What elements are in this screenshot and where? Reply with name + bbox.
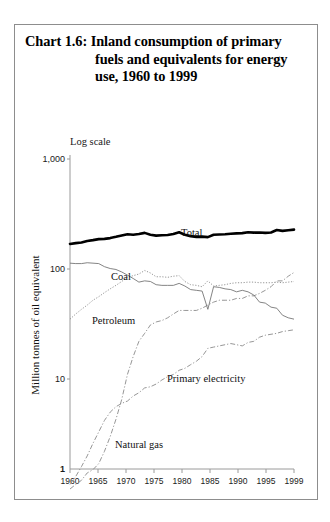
x-tick-label-1995: 1995 — [257, 476, 276, 486]
x-tick-label-1970: 1970 — [117, 476, 136, 486]
series-label-natural-gas: Natural gas — [115, 439, 163, 450]
x-tick-label-1980: 1980 — [173, 476, 192, 486]
series-label-primary-electricity: Primary electricity — [167, 373, 246, 384]
x-tick-marks — [70, 469, 294, 473]
y-tick-label-1: 1 — [60, 464, 65, 474]
log-scale-note: Log scale — [70, 136, 111, 147]
y-tick-label-100: 100 — [50, 264, 65, 274]
x-tick-label-1975: 1975 — [145, 476, 164, 486]
chart-figure-box: Chart 1.6: Inland consumption of primary… — [14, 24, 318, 500]
series-line-primary-electricity — [70, 330, 294, 485]
chart-svg: 1,000 100 10 1 Log scale Million tonnes … — [15, 25, 319, 501]
y-tick-label-1000: 1,000 — [42, 154, 65, 164]
series-label-total: Total — [181, 227, 203, 238]
y-axis-title: Million tonnes of oil equivalent — [29, 255, 41, 394]
x-tick-label-1999: 1999 — [285, 476, 304, 486]
series-label-petroleum: Petroleum — [92, 315, 135, 326]
series-line-coal — [70, 263, 294, 319]
plot-area: 1,000 100 10 1 Log scale Million tonnes … — [15, 25, 319, 501]
series-label-coal: Coal — [111, 271, 131, 282]
series-line-petroleum — [70, 270, 294, 319]
x-tick-label-1965: 1965 — [89, 476, 108, 486]
x-tick-label-1990: 1990 — [229, 476, 248, 486]
y-tick-label-10: 10 — [55, 374, 65, 384]
x-tick-label-1985: 1985 — [201, 476, 220, 486]
